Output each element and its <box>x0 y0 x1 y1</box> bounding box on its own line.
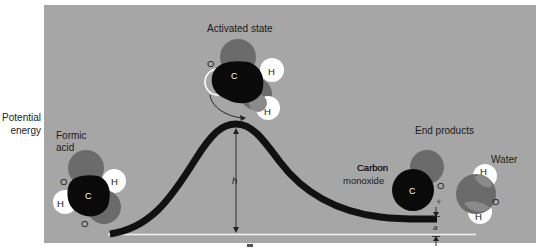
a-label: a <box>433 222 437 234</box>
carbon-monoxide-label-line2: monoxide <box>343 175 384 187</box>
formic-acid-label-line2: acid <box>56 142 87 154</box>
atom-label-c: C <box>231 70 238 82</box>
water-label: Water <box>491 154 517 166</box>
atom-label-o: O <box>207 58 214 70</box>
formic-acid-label-line1: Formic <box>56 130 87 142</box>
h-label: h <box>232 175 237 187</box>
atom-label-h: H <box>111 176 118 188</box>
atom-label-c: C <box>85 190 92 202</box>
atom-label-h: H <box>264 106 271 118</box>
activated-state-label: Activated state <box>207 23 273 35</box>
energy-curve <box>110 124 437 234</box>
atom-label-h: H <box>57 198 64 210</box>
end-products-label: End products <box>415 125 474 137</box>
axis-tick-mark <box>247 244 253 247</box>
atom-label-c: C <box>409 185 416 197</box>
atom-label-o: O <box>492 196 499 208</box>
atom-label-h: H <box>268 66 275 78</box>
transfer-arrowhead <box>240 115 246 121</box>
activated-state-molecule <box>205 39 284 121</box>
carbon-monoxide-label-line1: Carbon <box>357 162 388 174</box>
atom-label-o: O <box>437 180 444 192</box>
atom-label-o: O <box>60 176 67 188</box>
formic-acid-label: Formic acid <box>56 130 87 154</box>
plus-sign: + <box>436 196 442 208</box>
atom-label-h: H <box>480 166 487 178</box>
carbon-atom <box>212 61 264 103</box>
atom-label-o: O <box>81 218 88 230</box>
atom-label-h: H <box>475 211 482 223</box>
